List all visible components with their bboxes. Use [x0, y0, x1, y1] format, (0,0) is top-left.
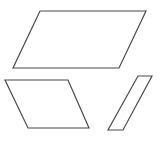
large-parallelogram: [13, 11, 146, 68]
narrow-parallelogram: [108, 76, 152, 130]
figure-svg-canvas: [0, 0, 161, 141]
parallelograms-figure: [0, 0, 161, 141]
medium-parallelogram: [5, 80, 89, 128]
